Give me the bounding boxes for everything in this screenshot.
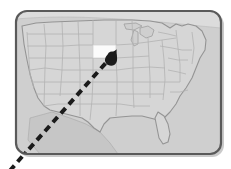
- figure-canvas: [0, 0, 231, 169]
- dashed-pointer-tail: [2, 152, 26, 169]
- map-figure: [0, 0, 231, 169]
